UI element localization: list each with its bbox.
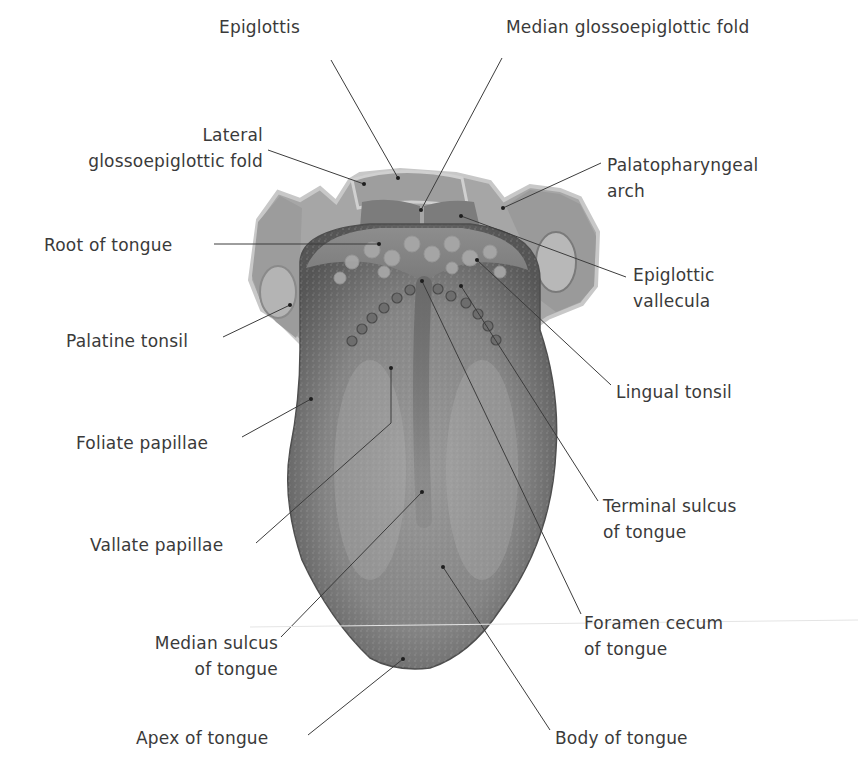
leader-epiglottis (331, 60, 398, 178)
label-lingual-tonsil: Lingual tonsil (616, 379, 732, 405)
label-body-of-tongue: Body of tongue (555, 725, 688, 751)
leader-lateral-glossoepiglottic-fold (268, 150, 364, 184)
label-epiglottis: Epiglottis (219, 14, 300, 40)
label-palatopharyngeal-arch: Palatopharyngeal arch (607, 152, 759, 204)
label-foliate-papillae: Foliate papillae (76, 430, 208, 456)
tongue-body (288, 224, 557, 669)
label-root-of-tongue: Root of tongue (44, 232, 172, 258)
label-vallate-papillae: Vallate papillae (90, 532, 223, 558)
label-lateral-glossoepiglottic-fold: Lateral glossoepiglottic fold (88, 122, 263, 174)
tongue-anatomy-diagram: Epiglottis Median glossoepiglottic fold … (0, 0, 858, 780)
label-palatine-tonsil: Palatine tonsil (66, 328, 188, 354)
label-median-sulcus-of-tongue: Median sulcus of tongue (155, 630, 278, 682)
leader-apex-of-tongue (308, 659, 403, 735)
label-median-glossoepiglottic-fold: Median glossoepiglottic fold (506, 14, 749, 40)
label-epiglottic-vallecula: Epiglottic vallecula (633, 262, 715, 314)
label-apex-of-tongue: Apex of tongue (136, 725, 269, 751)
label-terminal-sulcus-of-tongue: Terminal sulcus of tongue (603, 493, 737, 545)
label-foramen-cecum-of-tongue: Foramen cecum of tongue (584, 610, 723, 662)
